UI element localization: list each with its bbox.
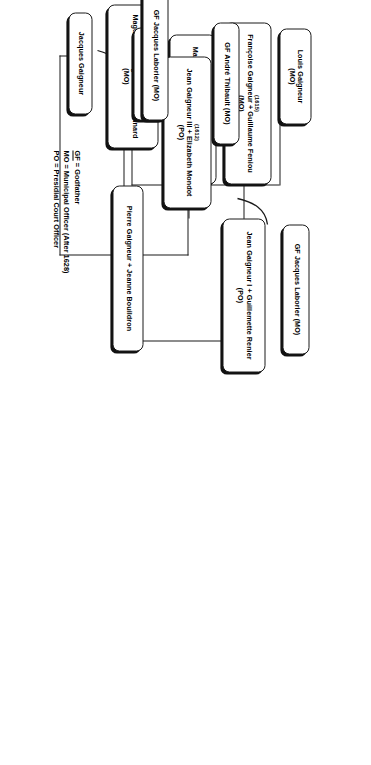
legend-text-po: = Presidial Court Officer: [51, 161, 60, 248]
node-louis-gaigneur-name: Louis Gaigneur: [295, 49, 304, 103]
node-pierre-gaigneur[interactable]: Pierre Gaigneur + Jeanne Bouildron: [112, 185, 143, 351]
connector-pierre-to-jean-iii: [187, 207, 188, 255]
node-jean-gaigneur-i-role: (PO): [235, 222, 243, 368]
node-jean-gaigneur-iii[interactable]: (1612) Jean Gaigneur III + Elizabeth Mon…: [163, 56, 211, 208]
legend-text-mo: = Municipal Officer (After 1628): [61, 162, 70, 273]
node-gf-andre-thibault-name: GF André Thibault (MO): [222, 42, 231, 124]
legend-line-municipal-officer: MO = Municipal Officer (After 1628): [60, 150, 71, 273]
legend-abbr-gf: GF: [72, 150, 81, 160]
node-jacques-gaigneur[interactable]: Jacques Gaigneur: [68, 12, 92, 114]
node-louis-gaigneur[interactable]: Louis Gaigneur (MO): [279, 28, 311, 124]
node-jacques-gaigneur-name: Jacques Gaigneur: [76, 31, 85, 94]
connector-magdeleine-horizontal: [131, 148, 132, 185]
node-jean-gaigneur-iii-name: Jean Gaigneur III + Elizabeth Mondot: [184, 68, 193, 196]
node-louis-gaigneur-role: (MO): [287, 32, 295, 120]
legend-text-gf: = Godfather: [72, 160, 81, 204]
legend-abbr-mo: MO: [61, 150, 70, 162]
connector-louis-horizontal: [279, 124, 280, 185]
diagram-page: Louis Gaigneur (MO) (1615) Françoise Gai…: [0, 0, 371, 765]
node-pierre-gaigneur-name: Pierre Gaigneur + Jeanne Bouildron: [124, 205, 133, 330]
legend-line-godfather: GF = Godfather: [70, 150, 81, 273]
node-gf-jacques-laborier-top[interactable]: GF Jacques Laborier (MO): [282, 224, 309, 354]
node-gf-jacques-laborier-bottom[interactable]: GF Jacques Laborier (MO): [142, 0, 168, 120]
node-jean-gaigneur-iii-role: (PO): [175, 60, 183, 204]
legend-abbr-po: PO: [51, 150, 60, 161]
node-jean-gaigneur-i[interactable]: Jean Gaigneur I + Guillemette Renier (PO…: [222, 218, 265, 372]
node-magdeleine-gaigneur-role: (MO): [121, 8, 129, 144]
node-gf-jacques-laborier-top-name: GF Jacques Laborier (MO): [292, 243, 301, 335]
node-francoise-gaigneur-name: Françoise Gaigneur + Guillaume Feniou: [245, 34, 254, 173]
node-jean-gaigneur-i-name: Jean Gaigneur I + Guillemette Renier: [244, 231, 253, 359]
genealogy-canvas: Louis Gaigneur (MO) (1615) Françoise Gai…: [0, 0, 371, 765]
legend-line-presidial-court-officer: PO = Presidial Court Officer: [49, 150, 60, 273]
legend: GF = Godfather MO = Municipal Officer (A…: [49, 150, 81, 273]
node-gf-jacques-laborier-bottom-name: GF Jacques Laborier (MO): [151, 9, 160, 101]
node-gf-andre-thibault[interactable]: GF André Thibault (MO): [213, 22, 239, 144]
